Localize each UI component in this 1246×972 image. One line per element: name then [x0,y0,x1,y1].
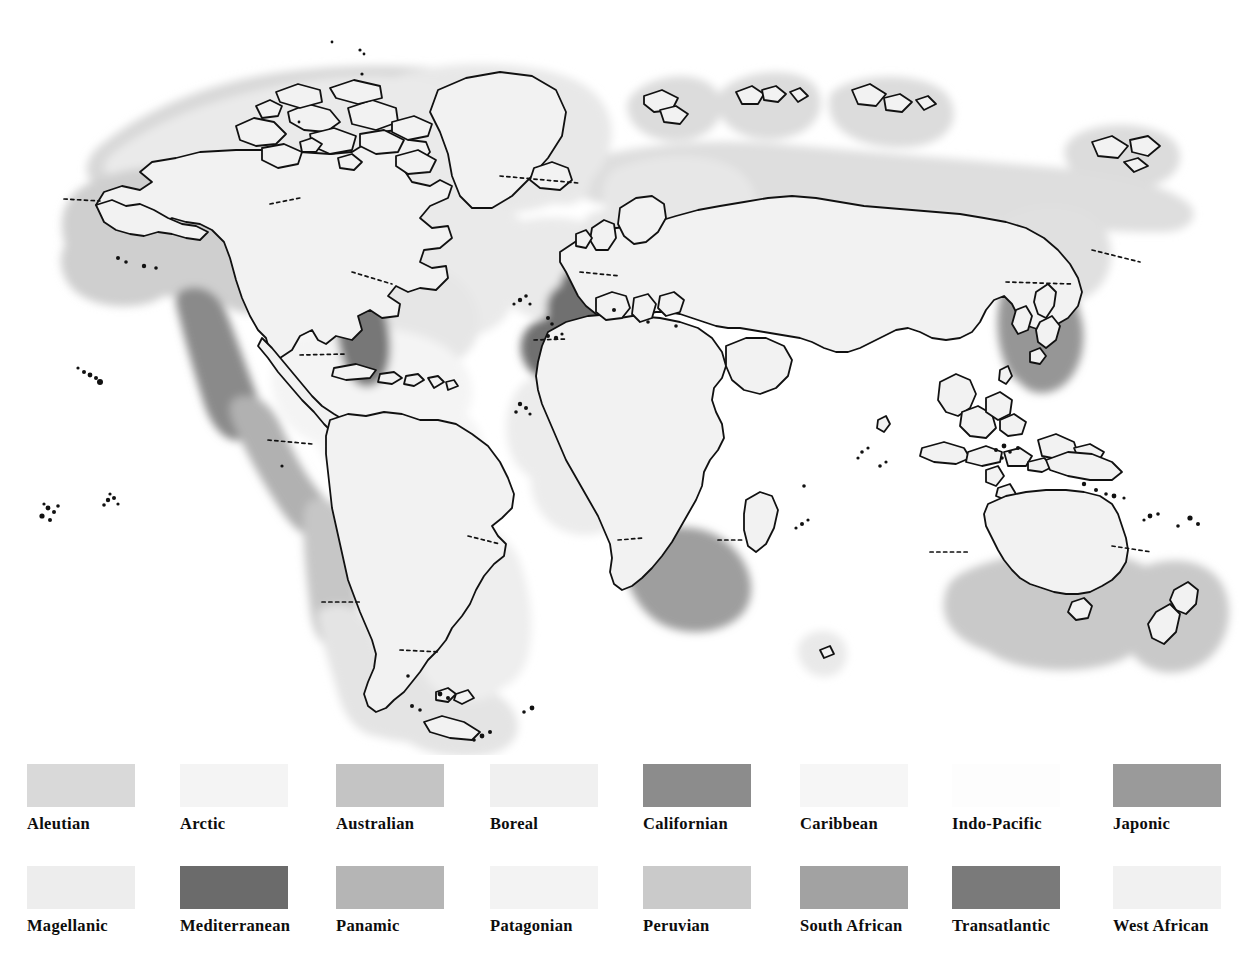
legend-item-aleutian[interactable]: Aleutian [27,762,177,858]
figure-page: Aleutian Arctic Australian Boreal Califo… [0,0,1246,972]
legend-swatch-transatlantic [952,866,1060,909]
legend-row-bottom: Magellanic Mediterranean Panamic Patagon… [0,864,1246,964]
legend-label-panamic: Panamic [336,916,506,936]
legend-label-caribbean: Caribbean [800,814,970,834]
legend-item-japonic[interactable]: Japonic [1113,762,1246,858]
legend-item-mediterranean[interactable]: Mediterranean [180,864,330,960]
legend-label-indo-pacific: Indo-Pacific [952,814,1122,834]
legend-item-boreal[interactable]: Boreal [490,762,640,858]
legend-label-west-african: West African [1113,916,1246,936]
legend-label-magellanic: Magellanic [27,916,197,936]
legend-item-arctic[interactable]: Arctic [180,762,330,858]
legend-swatch-west-african [1113,866,1221,909]
legend-item-south-african[interactable]: South African [800,864,950,960]
legend-label-mediterranean: Mediterranean [180,916,350,936]
legend-swatch-japonic [1113,764,1221,807]
legend-label-boreal: Boreal [490,814,660,834]
legend-label-aleutian: Aleutian [27,814,197,834]
legend-item-indo-pacific[interactable]: Indo-Pacific [952,762,1102,858]
legend-item-caribbean[interactable]: Caribbean [800,762,950,858]
legend-item-magellanic[interactable]: Magellanic [27,864,177,960]
legend-item-californian[interactable]: Californian [643,762,793,858]
legend-item-australian[interactable]: Australian [336,762,486,858]
legend-label-peruvian: Peruvian [643,916,813,936]
legend-swatch-magellanic [27,866,135,909]
legend-swatch-mediterranean [180,866,288,909]
legend-swatch-arctic [180,764,288,807]
legend-label-australian: Australian [336,814,506,834]
legend-label-arctic: Arctic [180,814,350,834]
legend-swatch-peruvian [643,866,751,909]
legend-item-transatlantic[interactable]: Transatlantic [952,864,1102,960]
legend-item-peruvian[interactable]: Peruvian [643,864,793,960]
legend-label-japonic: Japonic [1113,814,1246,834]
legend-swatch-south-african [800,866,908,909]
land-tasmania [1068,598,1092,620]
legend-swatch-panamic [336,866,444,909]
legend-label-californian: Californian [643,814,813,834]
legend-swatch-patagonian [490,866,598,909]
legend-label-patagonian: Patagonian [490,916,660,936]
legend-label-south-african: South African [800,916,970,936]
legend-row-top: Aleutian Arctic Australian Boreal Califo… [0,762,1246,862]
world-map [0,0,1246,755]
legend-item-patagonian[interactable]: Patagonian [490,864,640,960]
legend-swatch-boreal [490,764,598,807]
legend-swatch-australian [336,764,444,807]
map-legend: Aleutian Arctic Australian Boreal Califo… [0,758,1246,972]
legend-swatch-aleutian [27,764,135,807]
legend-swatch-caribbean [800,764,908,807]
legend-item-panamic[interactable]: Panamic [336,864,486,960]
world-map-svg [0,0,1246,755]
legend-item-west-african[interactable]: West African [1113,864,1246,960]
legend-label-transatlantic: Transatlantic [952,916,1122,936]
legend-swatch-indo-pacific [952,764,1060,807]
legend-swatch-californian [643,764,751,807]
